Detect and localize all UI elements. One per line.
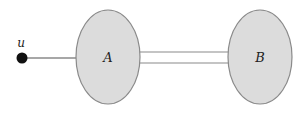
label-a: A [102, 50, 112, 65]
vertex-u [17, 53, 28, 64]
label-b: B [254, 50, 265, 65]
diagram-canvas: u A B [0, 0, 306, 114]
label-u: u [17, 36, 25, 50]
graph-diagram: u A B [0, 0, 306, 114]
